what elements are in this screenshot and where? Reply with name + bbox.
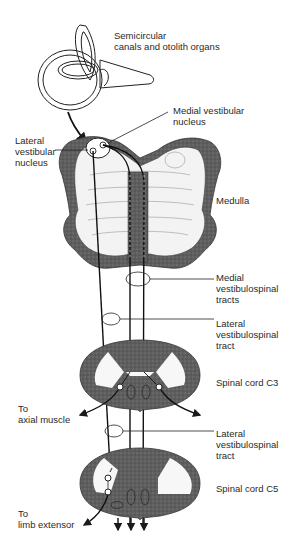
label-spinal-cord-c5: Spinal cord C5	[216, 483, 278, 494]
label-lateral-vestibular-nucleus: Lateral vestibular nucleus	[15, 135, 56, 168]
label-medulla: Medulla	[216, 195, 249, 206]
spinal-cord-c3	[80, 340, 200, 415]
spinal-cord-c5	[80, 448, 200, 525]
vestibulospinal-diagram: Semicircular canals and otolith organs M…	[0, 0, 290, 546]
label-spinal-cord-c3: Spinal cord C3	[216, 377, 278, 388]
label-semicircular-canals: Semicircular canals and otolith organs	[114, 30, 220, 52]
label-to-axial-muscle: To axial muscle	[18, 403, 70, 425]
label-medial-vestibular-nucleus: Medial vestibular nucleus	[173, 105, 244, 127]
label-medial-vestibulospinal-tracts: Medial vestibulospinal tracts	[216, 272, 278, 305]
medulla-section	[59, 137, 221, 269]
label-lateral-vestibulospinal-tract-upper: Lateral vestibulospinal tract	[216, 318, 278, 351]
label-to-limb-extensor: To limb extensor	[18, 508, 75, 530]
label-lateral-vestibulospinal-tract-lower: Lateral vestibulospinal tract	[216, 428, 278, 461]
